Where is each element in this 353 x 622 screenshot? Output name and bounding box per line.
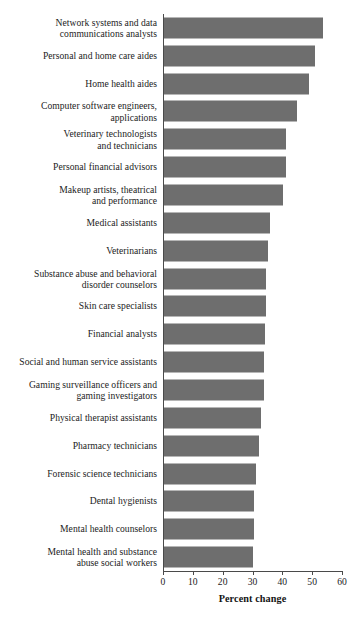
bar-category-label: Home health aides bbox=[7, 78, 157, 89]
bar bbox=[164, 212, 270, 233]
bar-row: Medical assistants bbox=[0, 209, 353, 237]
bar-category-label: Personal financial advisors bbox=[7, 161, 157, 172]
bar-chart: Network systems and data communications … bbox=[0, 0, 353, 622]
bar-category-label: Gaming surveillance officers and gaming … bbox=[7, 379, 157, 402]
bar-category-label: Personal and home care aides bbox=[7, 50, 157, 61]
bar-category-label: Network systems and data communications … bbox=[7, 17, 157, 40]
bar-category-label: Mental health counselors bbox=[7, 524, 157, 535]
bar-row: Substance abuse and behavioral disorder … bbox=[0, 265, 353, 293]
x-tick-label: 20 bbox=[218, 576, 228, 587]
bar bbox=[164, 268, 266, 289]
bar-row: Makeup artists, theatrical and performan… bbox=[0, 181, 353, 209]
bar-row: Personal financial advisors bbox=[0, 153, 353, 181]
bar-category-label: Computer software engineers, application… bbox=[7, 100, 157, 123]
bar-category-label: Social and human service assistants bbox=[7, 356, 157, 367]
bar-category-label: Dental hygienists bbox=[7, 496, 157, 507]
bar-category-label: Veterinarians bbox=[7, 245, 157, 256]
bar-row: Skin care specialists bbox=[0, 293, 353, 321]
bar bbox=[164, 157, 286, 178]
bar bbox=[164, 129, 286, 150]
bar bbox=[164, 101, 297, 122]
bar-category-label: Skin care specialists bbox=[7, 301, 157, 312]
bar bbox=[164, 379, 264, 400]
bar-category-label: Physical therapist assistants bbox=[7, 412, 157, 423]
bar-row: Physical therapist assistants bbox=[0, 404, 353, 432]
bar-category-label: Substance abuse and behavioral disorder … bbox=[7, 267, 157, 290]
x-tick-mark bbox=[193, 571, 194, 575]
bar-row: Social and human service assistants bbox=[0, 348, 353, 376]
bar bbox=[164, 519, 254, 540]
bar-rows-container: Network systems and data communications … bbox=[0, 14, 353, 571]
x-tick-mark bbox=[223, 571, 224, 575]
bar-row: Dental hygienists bbox=[0, 487, 353, 515]
x-tick-mark bbox=[163, 571, 164, 575]
bar bbox=[164, 45, 315, 66]
bar-category-label: Medical assistants bbox=[7, 217, 157, 228]
bar-category-label: Makeup artists, theatrical and performan… bbox=[7, 184, 157, 207]
x-tick-label: 10 bbox=[188, 576, 198, 587]
bar-row: Forensic science technicians bbox=[0, 460, 353, 488]
x-tick-mark bbox=[282, 571, 283, 575]
bar-row: Home health aides bbox=[0, 70, 353, 98]
bar bbox=[164, 324, 265, 345]
bar-row: Veterinarians bbox=[0, 237, 353, 265]
bar bbox=[164, 435, 259, 456]
bar-row: Veterinary technologists and technicians bbox=[0, 125, 353, 153]
bar bbox=[164, 73, 309, 94]
bar bbox=[164, 17, 323, 38]
bar-row: Mental health and substance abuse social… bbox=[0, 543, 353, 571]
bar-row: Personal and home care aides bbox=[0, 42, 353, 70]
bar bbox=[164, 352, 264, 373]
bar-category-label: Financial analysts bbox=[7, 329, 157, 340]
x-axis-title: Percent change bbox=[163, 593, 342, 604]
bar bbox=[164, 491, 254, 512]
bar-category-label: Mental health and substance abuse social… bbox=[7, 546, 157, 569]
x-tick-label: 0 bbox=[161, 576, 166, 587]
x-tick-mark bbox=[253, 571, 254, 575]
bar-category-label: Pharmacy technicians bbox=[7, 440, 157, 451]
bar bbox=[164, 185, 283, 206]
bar-category-label: Veterinary technologists and technicians bbox=[7, 128, 157, 151]
x-tick-label: 30 bbox=[248, 576, 258, 587]
bar-row: Network systems and data communications … bbox=[0, 14, 353, 42]
x-tick-mark bbox=[312, 571, 313, 575]
bar-row: Pharmacy technicians bbox=[0, 432, 353, 460]
x-tick-label: 50 bbox=[307, 576, 317, 587]
x-tick-label: 40 bbox=[278, 576, 288, 587]
bar bbox=[164, 547, 253, 568]
bar bbox=[164, 463, 256, 484]
bar bbox=[164, 407, 261, 428]
x-tick-mark bbox=[342, 571, 343, 575]
bar bbox=[164, 240, 268, 261]
bar-category-label: Forensic science technicians bbox=[7, 468, 157, 479]
bar-row: Mental health counselors bbox=[0, 515, 353, 543]
bar-row: Computer software engineers, application… bbox=[0, 98, 353, 126]
bar-row: Gaming surveillance officers and gaming … bbox=[0, 376, 353, 404]
x-tick-label: 60 bbox=[337, 576, 347, 587]
bar-row: Financial analysts bbox=[0, 320, 353, 348]
bar bbox=[164, 296, 266, 317]
